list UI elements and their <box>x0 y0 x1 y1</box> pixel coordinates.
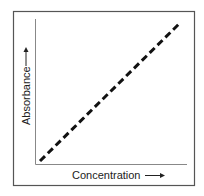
y-axis-label: Absorbance <box>20 66 32 125</box>
chart-canvas: Concentration Absorbance <box>0 0 204 196</box>
x-axis-label: Concentration <box>72 169 141 181</box>
